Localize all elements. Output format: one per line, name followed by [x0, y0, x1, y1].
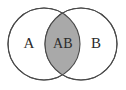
venn-diagram-canvas: A AB B — [0, 0, 126, 90]
set-b-label: B — [91, 35, 101, 51]
intersection-label: AB — [53, 36, 73, 51]
set-a-label: A — [23, 35, 34, 51]
venn-diagram-figure: A AB B — [0, 0, 126, 90]
